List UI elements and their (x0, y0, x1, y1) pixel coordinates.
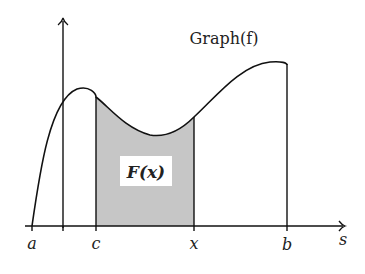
graph-title: Graph(f) (190, 29, 259, 48)
area-label: F(x) (126, 162, 165, 182)
tick-label-c: c (92, 234, 101, 253)
tick-label-b: b (282, 235, 292, 254)
axis-label-s: s (339, 230, 347, 249)
tick-label-x: x (189, 234, 198, 253)
tick-label-a: a (27, 234, 37, 253)
integral-diagram: F(x) Graph(f) a c x b s (0, 0, 365, 274)
